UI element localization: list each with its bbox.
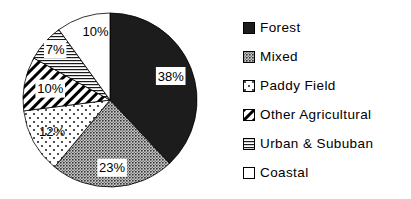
legend-item-mixed: Mixed [243, 42, 373, 71]
legend-item-coastal: Coastal [243, 158, 373, 187]
legend-marker-urban-sububan-icon [243, 138, 255, 150]
pie-area: 38%23%12%10%7%10% [0, 0, 232, 199]
legend-label: Forest [260, 21, 301, 35]
legend-item-other-agricultural: Other Agricultural [243, 100, 373, 129]
slice-label: 23% [99, 160, 125, 175]
slice-label: 10% [82, 24, 108, 39]
legend-label: Coastal [260, 166, 309, 180]
legend-item-urban-sububan: Urban & Sububan [243, 129, 373, 158]
legend-item-paddy-field: Paddy Field [243, 71, 373, 100]
legend-item-forest: Forest [243, 13, 373, 42]
slice-label: 7% [46, 42, 65, 57]
legend-marker-paddy-field-icon [243, 80, 255, 92]
slice-label: 10% [37, 81, 63, 96]
legend-label: Urban & Sububan [260, 137, 373, 151]
pie-chart: 38%23%12%10%7%10% [0, 0, 232, 199]
legend-label: Paddy Field [260, 79, 336, 93]
legend-marker-forest-icon [243, 22, 255, 34]
legend-label: Mixed [260, 50, 298, 64]
slice-label: 38% [158, 69, 184, 84]
legend-label: Other Agricultural [260, 108, 372, 122]
legend-marker-mixed-icon [243, 51, 255, 63]
legend-marker-coastal-icon [243, 167, 255, 179]
legend-marker-other-agricultural-icon [243, 109, 255, 121]
pie-chart-figure: 38%23%12%10%7%10% ForestMixedPaddy Field… [0, 0, 411, 199]
slice-label: 12% [39, 124, 65, 139]
legend: ForestMixedPaddy FieldOther Agricultural… [243, 13, 373, 187]
